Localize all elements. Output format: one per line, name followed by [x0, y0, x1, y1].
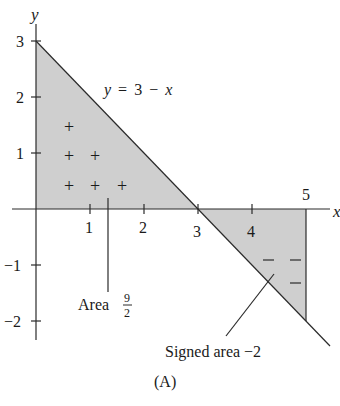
area-fraction-denominator: 2	[124, 306, 130, 320]
y-tick-label-neg2: −2	[4, 313, 21, 330]
y-tick-label-2: 2	[16, 89, 24, 106]
plus-marker: +	[64, 176, 74, 196]
equation-var-y: y	[102, 81, 112, 99]
y-tick-label-3: 3	[16, 33, 24, 50]
y-axis-label: y	[29, 5, 39, 24]
plus-marker: +	[117, 176, 127, 196]
plus-marker: +	[64, 117, 74, 137]
equation-var-x: x	[164, 81, 172, 98]
y-tick-label-1: 1	[16, 145, 24, 162]
equation-equals: =	[118, 81, 127, 98]
x-tick-label-3: 3	[193, 223, 201, 240]
area-fraction-numerator: 9	[124, 291, 130, 305]
x-tick-label-5: 5	[302, 186, 310, 203]
signed-area-leader-line	[226, 274, 274, 336]
equation-label: y = 3 − x	[102, 81, 172, 99]
x-tick-label-4: 4	[247, 223, 255, 240]
x-tick-label-1: 1	[85, 219, 93, 236]
signed-area-diagram: y x 1 2 3 4 5 3 2 1 −1 −2 y = 3 − x + + …	[0, 0, 340, 406]
plus-marker: +	[64, 146, 74, 166]
equation-const: 3	[134, 81, 142, 98]
equation-minus: −	[149, 81, 158, 98]
plus-marker: +	[90, 146, 100, 166]
plot-canvas: y x 1 2 3 4 5 3 2 1 −1 −2 y = 3 − x + + …	[0, 0, 340, 406]
figure-caption: (A)	[154, 373, 176, 391]
area-label: Area	[78, 296, 109, 313]
signed-area-label: Signed area −2	[165, 343, 261, 361]
x-tick-label-2: 2	[139, 219, 147, 236]
plus-marker: +	[90, 176, 100, 196]
x-axis-label: x	[332, 202, 340, 221]
y-tick-label-neg1: −1	[4, 257, 21, 274]
